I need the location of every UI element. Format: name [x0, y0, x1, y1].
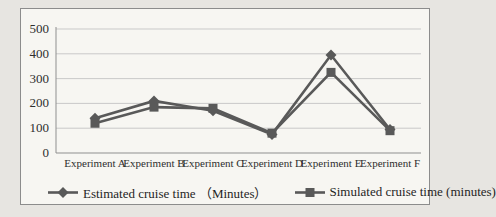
- x-category-label: Experiment E: [301, 157, 362, 169]
- y-tick-label: 200: [30, 95, 50, 110]
- data-point-square: [268, 129, 277, 138]
- y-tick-label: 500: [30, 21, 50, 36]
- x-category-label: Experiment D: [241, 157, 303, 169]
- series-line-estimated: [95, 55, 390, 134]
- diamond-marker-icon: [47, 186, 79, 199]
- data-point-square: [386, 126, 395, 135]
- chart-legend: Estimated cruise time （Minutes） Simulate…: [47, 183, 496, 201]
- y-tick-label: 400: [30, 46, 50, 61]
- y-tick-label: 0: [43, 145, 50, 160]
- series-line-simulated: [95, 72, 390, 133]
- legend-item-estimated: Estimated cruise time （Minutes）: [47, 183, 268, 202]
- chart-frame: 0100200300400500Experiment AExperiment B…: [20, 8, 430, 205]
- legend-label-simulated: Simulated cruise time (minutes): [330, 184, 496, 200]
- data-point-square: [327, 68, 336, 77]
- y-tick-label: 300: [30, 71, 50, 86]
- x-category-label: Experiment C: [182, 157, 243, 169]
- legend-item-simulated: Simulated cruise time (minutes): [294, 184, 496, 200]
- x-category-label: Experiment A: [64, 157, 125, 169]
- y-tick-label: 100: [30, 120, 50, 135]
- square-marker-icon: [294, 186, 326, 199]
- data-point-square: [150, 103, 159, 112]
- data-point-square: [91, 119, 100, 128]
- legend-label-estimated: Estimated cruise time （Minutes）: [83, 183, 268, 202]
- line-chart: 0100200300400500Experiment AExperiment B…: [21, 9, 431, 206]
- x-category-label: Experiment F: [360, 157, 420, 169]
- data-point-square: [209, 104, 218, 113]
- x-category-label: Experiment B: [123, 157, 184, 169]
